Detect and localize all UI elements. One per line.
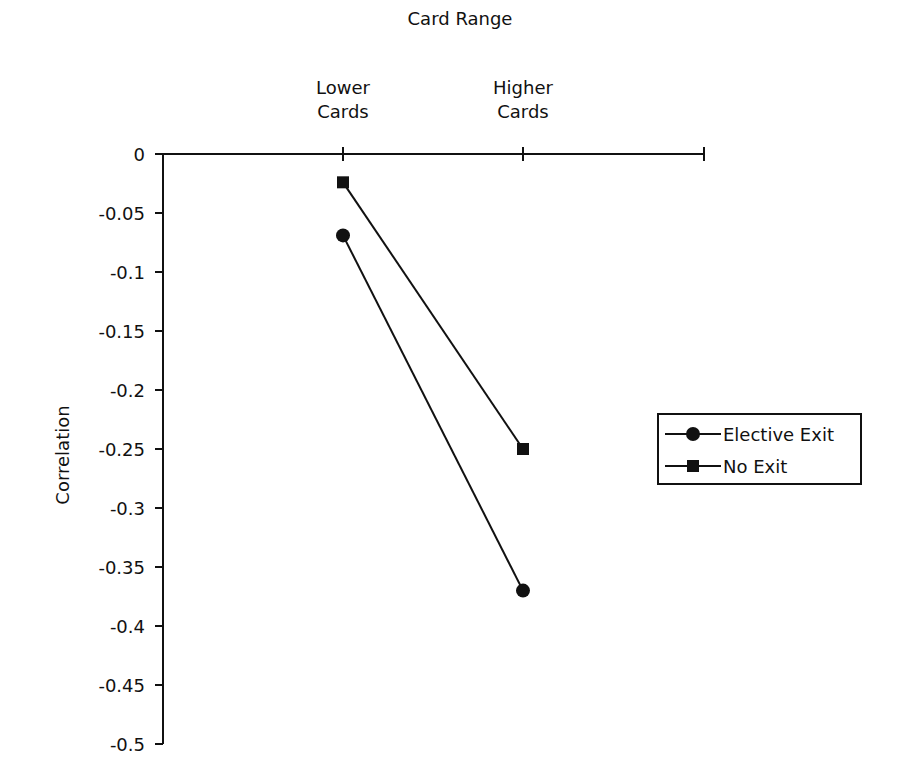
category-label-lower-cards: Lower Cards [273,76,413,124]
category-label-line: Cards [273,100,413,124]
circle-marker-icon [516,584,530,598]
legend: Elective Exit No Exit [657,413,862,485]
category-label-line: Cards [453,100,593,124]
legend-label: Elective Exit [723,424,834,445]
circle-marker-icon [336,228,350,242]
category-label-higher-cards: Higher Cards [453,76,593,124]
square-marker-icon [665,451,721,481]
square-marker-icon [337,176,349,188]
series-line-elective-exit [343,235,523,590]
y-axis-title: Correlation [52,405,73,504]
y-tick-label: -0.5 [110,734,145,755]
y-tick-label: -0.3 [110,498,145,519]
category-label-line: Higher [453,76,593,100]
y-tick-label: -0.25 [98,439,145,460]
y-tick-label: -0.35 [98,557,145,578]
x-axis-title: Card Range [0,8,900,29]
square-marker-icon [517,443,529,455]
legend-item-no-exit: No Exit [665,451,787,481]
legend-label: No Exit [723,456,787,477]
y-tick-label: -0.15 [98,321,145,342]
legend-item-elective-exit: Elective Exit [665,419,834,449]
plot-area: 0-0.05-0.1-0.15-0.2-0.25-0.3-0.35-0.4-0.… [0,0,900,760]
y-tick-label: 0 [134,144,145,165]
line-chart: 0-0.05-0.1-0.15-0.2-0.25-0.3-0.35-0.4-0.… [0,0,900,760]
category-label-line: Lower [273,76,413,100]
y-tick-label: -0.2 [110,380,145,401]
y-tick-label: -0.1 [110,262,145,283]
series-line-no-exit [343,182,523,449]
circle-marker-icon [665,419,721,449]
y-tick-label: -0.4 [110,616,145,637]
y-tick-label: -0.05 [98,203,145,224]
y-tick-label: -0.45 [98,675,145,696]
